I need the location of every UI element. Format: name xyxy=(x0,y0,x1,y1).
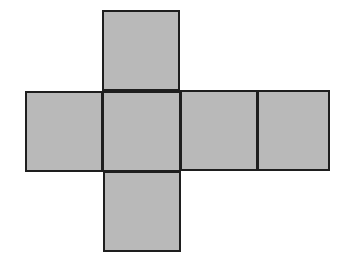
cube-face-top xyxy=(102,10,180,91)
cube-face-bottom xyxy=(103,171,181,252)
cube-face-left xyxy=(25,91,103,172)
cube-face-right xyxy=(180,90,258,171)
cube-face-far-right xyxy=(257,90,330,171)
cube-face-center xyxy=(102,91,181,172)
cube-net-diagram xyxy=(0,0,358,253)
